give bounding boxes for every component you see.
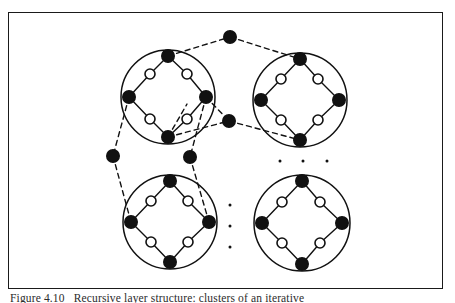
figure-canvas — [9, 13, 444, 290]
node-north — [162, 50, 174, 62]
node-sw-a — [277, 238, 287, 248]
edge-bridge-top-to-topright-north — [230, 37, 300, 59]
caption-label: Figure 4.10 — [10, 292, 65, 303]
cluster-bottom-left — [123, 175, 217, 269]
cluster-top-right — [253, 53, 347, 147]
node-north — [296, 175, 308, 187]
ellipsis-vertical — [229, 204, 232, 249]
node-ne-a — [182, 69, 192, 79]
figure-page: Figure 4.10Recursive layer structure: cl… — [0, 0, 455, 303]
dashed-edge-layer — [113, 37, 300, 222]
cluster-bottom-right-edges — [262, 181, 342, 264]
node-ne-a — [315, 197, 325, 207]
node-west — [256, 217, 268, 229]
bridge-node-top — [224, 31, 236, 43]
edge-topleft-west-to-bridge-left — [113, 97, 129, 156]
node-east — [333, 94, 345, 106]
cluster-top-left — [121, 50, 215, 144]
cluster-bottom-right-nodes — [256, 175, 348, 270]
node-nw-a — [145, 69, 155, 79]
node-sw-a — [276, 115, 286, 125]
edge-bridge-left-to-bottomleft-west — [113, 156, 131, 222]
node-sw-a — [146, 237, 156, 247]
node-east — [203, 216, 215, 228]
node-se-a — [315, 238, 325, 248]
node-south — [294, 134, 306, 146]
figure-caption: Figure 4.10Recursive layer structure: cl… — [10, 292, 450, 303]
bridge-node-mid-right — [184, 151, 196, 163]
ellipsis-vertical-dot-1 — [229, 204, 232, 207]
node-nw-a — [146, 196, 156, 206]
bridge-node-left — [107, 150, 119, 162]
node-ne-a — [183, 196, 193, 206]
node-south — [296, 258, 308, 270]
node-east — [200, 91, 212, 103]
ellipsis-horizontal-dot-3 — [326, 160, 329, 163]
ellipsis-horizontal-dot-2 — [302, 160, 305, 163]
caption-text: Recursive layer structure: clusters of a… — [74, 292, 305, 303]
cluster-top-left-edges — [129, 56, 206, 137]
node-west — [125, 216, 137, 228]
node-west — [123, 91, 135, 103]
edge-topleft-north-to-bridge-top — [168, 37, 230, 56]
cluster-bottom-left-nodes — [125, 175, 215, 268]
node-north — [294, 53, 306, 65]
cluster-bottom-right — [254, 175, 350, 271]
ellipsis-vertical-dot-3 — [229, 246, 232, 249]
node-sw-a — [145, 114, 155, 124]
node-west — [255, 94, 267, 106]
node-ne-a — [313, 74, 323, 84]
node-nw-a — [276, 74, 286, 84]
ellipsis-vertical-dot-2 — [229, 225, 232, 228]
cluster-top-right-edges — [261, 59, 339, 140]
node-north — [164, 175, 176, 187]
figure-frame-border — [8, 12, 443, 289]
node-east — [336, 217, 348, 229]
node-se-a — [313, 115, 323, 125]
cluster-bottom-left-edges — [131, 181, 209, 262]
node-se-a — [183, 237, 193, 247]
ellipsis-horizontal-dot-1 — [279, 160, 282, 163]
node-south — [164, 256, 176, 268]
ellipsis-horizontal — [279, 160, 329, 163]
node-south — [162, 131, 174, 143]
bridge-node-middle — [223, 115, 235, 127]
node-nw-a — [277, 197, 287, 207]
node-se-a — [182, 114, 192, 124]
